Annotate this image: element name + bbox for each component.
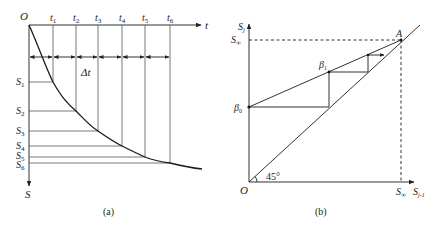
- panel-a: O t S Δt t1 t2 t3 t4 t5 t6 S1 S2 S3 S4 S…: [16, 10, 209, 218]
- s1-label: S1: [16, 76, 25, 89]
- s-inf-y-label: S∞: [231, 34, 241, 47]
- s-tick-labels: S1 S2 S3 S4 S5 S6: [16, 76, 25, 172]
- s2-label: S2: [16, 105, 25, 118]
- delta-t-label: Δt: [80, 66, 91, 78]
- point-a: [400, 39, 403, 42]
- sj-1-axis-label: Sj-1: [413, 186, 425, 198]
- t3-label: t3: [95, 12, 102, 25]
- beta1-point: [328, 71, 331, 74]
- time-gridlines: [53, 25, 170, 163]
- beta1-label: β1: [318, 59, 327, 71]
- t1-label: t1: [50, 12, 57, 25]
- sj-axis-label: Sj: [238, 21, 245, 34]
- origin-label-b: O: [240, 184, 248, 196]
- angle-arc: [255, 177, 257, 183]
- caption-a: (a): [103, 206, 114, 218]
- t4-label: t4: [119, 12, 126, 25]
- beta0-point: [247, 105, 250, 108]
- settlement-gridlines: [29, 82, 170, 163]
- t2-label: t2: [73, 12, 80, 25]
- settlement-curve: [29, 25, 202, 169]
- t-axis-label: t: [205, 19, 209, 31]
- t-tick-labels: t1 t2 t3 t4 t5 t6: [50, 12, 174, 25]
- diagram-canvas: O t S Δt t1 t2 t3 t4 t5 t6 S1 S2 S3 S4 S…: [0, 0, 436, 230]
- s-axis-label: S: [25, 188, 31, 200]
- angle-label: 45°: [266, 171, 280, 182]
- beta-line: [249, 40, 401, 107]
- s3-label: S3: [16, 125, 25, 138]
- panel-b: Sj S∞ A β0 β1 O 45° S∞ Sj-1 (b): [231, 21, 425, 218]
- t6-label: t6: [167, 12, 174, 25]
- caption-b: (b): [315, 206, 327, 218]
- t5-label: t5: [142, 12, 149, 25]
- beta0-label: β0: [233, 102, 242, 114]
- line-45-degree: [249, 25, 420, 182]
- s-inf-x-label: S∞: [396, 186, 406, 199]
- iteration-staircase: [249, 55, 384, 107]
- beta2-point: [367, 54, 369, 56]
- origin-label-a: O: [20, 10, 28, 22]
- point-a-label: A: [395, 28, 403, 39]
